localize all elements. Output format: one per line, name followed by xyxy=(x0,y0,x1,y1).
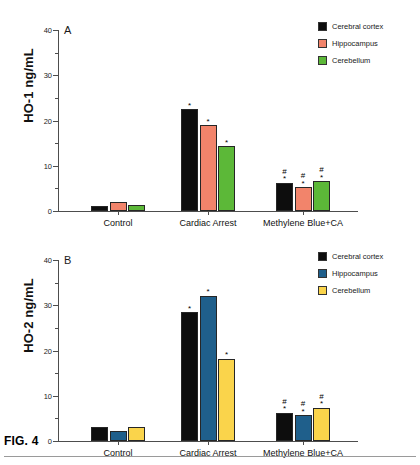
bar: * xyxy=(218,359,235,441)
x-tick xyxy=(208,211,209,215)
significance-marker: #* xyxy=(282,398,286,414)
bar xyxy=(110,202,127,211)
tick-mark xyxy=(53,211,58,212)
significance-symbol: * xyxy=(301,180,305,188)
x-tick xyxy=(303,441,304,445)
bar: * xyxy=(181,109,198,211)
panel-b: B HO-2 ng/mL 010203040 ***#*#*#* Control… xyxy=(0,230,420,462)
significance-symbol: * xyxy=(206,118,209,126)
y-tick-label: 40 xyxy=(44,256,52,265)
significance-symbol: * xyxy=(225,351,228,359)
legend-item: Hippocampus xyxy=(318,35,414,52)
x-tick xyxy=(303,211,304,215)
bar: #* xyxy=(295,187,312,211)
bar xyxy=(128,427,145,441)
x-axis-group-label: Control xyxy=(103,218,132,228)
bar: * xyxy=(218,146,235,211)
significance-symbol: * xyxy=(301,408,305,416)
significance-marker: #* xyxy=(301,172,305,188)
legend-item: Cerebellum xyxy=(318,52,414,69)
significance-symbol: * xyxy=(225,139,228,147)
legend-color-swatch xyxy=(318,286,327,295)
legend-color-swatch xyxy=(318,22,327,31)
y-tick-label: 30 xyxy=(44,301,52,310)
y-tick-label: 0 xyxy=(48,207,52,216)
legend-item: Cerebellum xyxy=(318,282,414,299)
panel-a-legend: Cerebral cortexHippocampusCerebellum xyxy=(318,18,414,69)
bar xyxy=(128,205,145,211)
legend-label: Hippocampus xyxy=(332,269,378,278)
x-tick xyxy=(118,211,119,215)
bar xyxy=(91,206,108,211)
bar: #* xyxy=(295,415,312,441)
significance-marker: * xyxy=(206,118,209,127)
y-tick-label: 40 xyxy=(44,26,52,35)
bar: #* xyxy=(313,181,330,211)
panel-b-legend: Cerebral cortexHippocampusCerebellum xyxy=(318,248,414,299)
panel-a-plot-area: 010203040 ***#*#*#* ControlCardiac Arres… xyxy=(58,30,358,211)
y-tick-label: 20 xyxy=(44,346,52,355)
legend-label: Cerebellum xyxy=(332,286,370,295)
legend-label: Hippocampus xyxy=(332,39,378,48)
significance-marker: * xyxy=(188,305,191,314)
panel-a: A HO-1 ng/mL 010203040 ***#*#*#* Control… xyxy=(0,0,420,232)
significance-marker: #* xyxy=(319,166,323,182)
bar xyxy=(91,427,108,441)
significance-symbol: * xyxy=(188,305,191,313)
y-tick-label: 20 xyxy=(44,116,52,125)
bar: #* xyxy=(276,183,293,211)
significance-marker: * xyxy=(225,351,228,360)
significance-symbol: * xyxy=(206,288,209,296)
y-tick-label: 0 xyxy=(48,437,52,446)
y-tick-label: 30 xyxy=(44,71,52,80)
y-tick-label: 10 xyxy=(44,391,52,400)
y-tick-label: 10 xyxy=(44,161,52,170)
x-axis-group-label: Cardiac Arrest xyxy=(179,218,236,228)
legend-item: Cerebral cortex xyxy=(318,18,414,35)
panel-b-plot-area: 010203040 ***#*#*#* ControlCardiac Arres… xyxy=(58,260,358,441)
panel-a-bars: ***#*#*#* xyxy=(58,30,358,211)
legend-color-swatch xyxy=(318,252,327,261)
bar: * xyxy=(200,296,217,441)
significance-marker: #* xyxy=(319,393,323,409)
significance-symbol: * xyxy=(282,405,286,413)
legend-color-swatch xyxy=(318,56,327,65)
significance-symbol: * xyxy=(188,102,191,110)
bar xyxy=(110,431,127,441)
panel-a-y-axis-title: HO-1 ng/mL xyxy=(21,6,36,166)
legend-item: Hippocampus xyxy=(318,265,414,282)
tick-mark xyxy=(53,441,58,442)
legend-label: Cerebral cortex xyxy=(332,22,383,31)
figure-caption: FIG. 4 xyxy=(4,434,39,448)
legend-label: Cerebral cortex xyxy=(332,252,383,261)
significance-marker: #* xyxy=(301,400,305,416)
legend-color-swatch xyxy=(318,269,327,278)
panel-b-bars: ***#*#*#* xyxy=(58,260,358,441)
bar: * xyxy=(181,312,198,441)
legend-item: Cerebral cortex xyxy=(318,248,414,265)
x-tick xyxy=(208,441,209,445)
bar: * xyxy=(200,125,217,211)
significance-marker: * xyxy=(188,102,191,111)
bar: #* xyxy=(276,413,293,442)
significance-symbol: * xyxy=(319,174,323,182)
x-axis-group-label: Methylene Blue+CA xyxy=(263,218,343,228)
significance-marker: #* xyxy=(282,168,286,184)
legend-color-swatch xyxy=(318,39,327,48)
significance-marker: * xyxy=(206,288,209,297)
bar: #* xyxy=(313,408,330,441)
significance-marker: * xyxy=(225,139,228,148)
figure-4: A HO-1 ng/mL 010203040 ***#*#*#* Control… xyxy=(0,0,420,465)
x-tick xyxy=(118,441,119,445)
legend-label: Cerebellum xyxy=(332,56,370,65)
caption-divider xyxy=(4,456,416,457)
significance-symbol: * xyxy=(319,400,323,408)
significance-symbol: * xyxy=(282,175,286,183)
panel-b-y-axis-title: HO-2 ng/mL xyxy=(21,236,36,396)
